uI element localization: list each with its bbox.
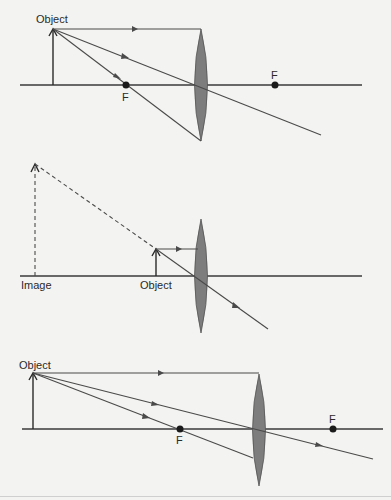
ray-arrow-icon (132, 26, 138, 32)
object-label: Object (19, 359, 51, 371)
ray-arrow-icon (151, 401, 159, 406)
diagram-1: Object F F (20, 13, 362, 141)
diagram-3: Object F F (19, 359, 383, 486)
ray-arrow-icon (142, 413, 150, 419)
ray-arrow-icon (176, 246, 182, 252)
focal-label-right: F (329, 413, 336, 425)
ray-through-center (53, 29, 321, 135)
ray-arrow-icon (121, 53, 129, 59)
ray-diagrams-figure: Object F F Image Object (0, 0, 391, 500)
ray-arrow-icon (158, 370, 164, 376)
focal-label-left: F (122, 91, 129, 103)
ray-through-center (156, 249, 268, 329)
focal-label-left: F (176, 434, 183, 446)
object-label: Object (140, 279, 172, 291)
focal-point-left (123, 82, 130, 89)
focal-point-left (177, 426, 184, 433)
object-label: Object (36, 13, 68, 25)
image-label: Image (21, 279, 52, 291)
object-arrow (152, 249, 160, 276)
convex-lens (195, 29, 208, 141)
focal-label-right: F (271, 69, 278, 81)
focal-point-right (330, 426, 337, 433)
image-arrow-virtual (31, 164, 39, 276)
ray-virtual-extension (35, 164, 156, 249)
focal-point-right (272, 82, 279, 89)
convex-lens (195, 219, 208, 333)
diagram-2: Image Object (20, 164, 362, 333)
object-arrow (49, 29, 57, 85)
bottom-separator (0, 496, 391, 497)
object-arrow (29, 373, 37, 429)
ray-arrow-icon (232, 302, 240, 308)
